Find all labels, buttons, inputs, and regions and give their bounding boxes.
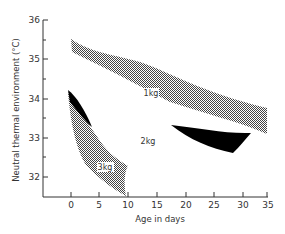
x-axis-title: Age in days <box>135 214 185 224</box>
y-tick-label: 35 <box>29 54 40 64</box>
x-tick-label: 10 <box>122 200 134 210</box>
y-tick-label: 34 <box>29 94 41 104</box>
x-tick-label: 20 <box>180 200 192 210</box>
label-1kg: 1kg <box>144 89 159 98</box>
y-tick-label: 36 <box>29 15 41 25</box>
x-tick-label: 30 <box>237 200 249 210</box>
y-tick-label: 33 <box>29 133 40 143</box>
y-ticks <box>43 20 48 177</box>
x-tick-label: 0 <box>68 200 74 210</box>
x-ticks <box>71 192 267 197</box>
y-tick-label: 32 <box>29 172 40 182</box>
x-tick-label: 35 <box>262 200 273 210</box>
x-tick-label: 15 <box>151 200 162 210</box>
label-3kg: 3kg <box>98 163 113 172</box>
x-tick-label: 25 <box>208 200 219 210</box>
x-tick-label: 5 <box>96 200 102 210</box>
y-axis-title: Neutral thermal environment (°C) <box>11 38 21 182</box>
label-2kg: 2kg <box>141 137 156 146</box>
band-1kg <box>71 39 267 134</box>
neutral-thermal-environment-chart: 36 35 34 33 32 0 5 10 15 20 25 30 35 Age… <box>0 0 285 234</box>
region-2kg-late <box>171 125 251 153</box>
